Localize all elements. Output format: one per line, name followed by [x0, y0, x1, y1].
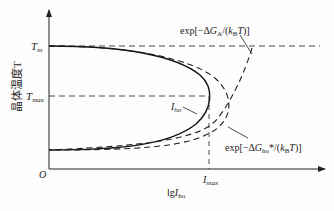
tm-tick-label: Tm	[31, 40, 42, 54]
exp-ga-curve	[49, 48, 252, 150]
y-axis-label: 晶体温度T	[10, 61, 23, 112]
iho-curve	[49, 46, 210, 150]
iho-leader	[183, 107, 197, 114]
exp-gho-leader	[228, 127, 248, 138]
x-axis-label: lgIho	[167, 187, 186, 200]
tmax-tick-label: Tmax	[26, 90, 45, 104]
origin-label: O	[39, 169, 46, 180]
imax-tick-label: Imax	[202, 174, 219, 187]
exp-gho-curve	[49, 46, 229, 150]
exp-ga-label: exp[−ΔGA/(kBT)]	[180, 25, 250, 38]
exp-gho-label: exp[−ΔGho*/(kBT)]	[225, 142, 302, 155]
diagram-canvas: Tm Tmax O Imax lgIho Iho exp[−ΔGA/(kBT)]…	[0, 0, 334, 211]
nucleation-rate-diagram: Tm Tmax O Imax lgIho Iho exp[−ΔGA/(kBT)]…	[0, 0, 334, 211]
iho-curve-label: Iho	[170, 101, 182, 114]
exp-ga-leader	[240, 35, 252, 54]
